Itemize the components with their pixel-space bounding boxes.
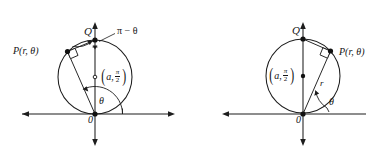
left-point-p [65,49,70,54]
figure-root: P(r, θ) Q 0 θ π − θ ( a , π 2 ) P(r, θ) … [0,0,366,157]
right-label-point-q: Q [292,25,300,36]
right-diagram-group [222,22,366,146]
right-center-fraction-numerator: π [283,68,289,75]
right-center-fraction-denominator: 2 [283,75,289,83]
left-supplement-leader [99,34,115,42]
left-center-paren-open: ( [101,69,105,84]
left-origin-point [92,111,97,116]
right-center-paren-open: ( [269,68,273,83]
right-circle-center-point [301,74,305,78]
left-center-fraction: π 2 [115,69,121,84]
right-x-axis-arrow-left [222,111,229,117]
left-label-center-coordinates: ( a , π 2 ) [100,69,127,84]
left-q-tick-arrow [93,46,98,50]
left-circle-center-point [93,75,97,79]
right-label-segment-r: r [320,79,324,88]
right-center-fraction: π 2 [283,68,289,83]
left-point-q [92,37,97,42]
right-center-paren-close: ) [290,68,294,83]
left-x-axis-arrow-left [22,111,29,117]
left-center-fraction-numerator: π [115,69,121,76]
right-polar-axis-tick [327,108,329,112]
left-label-point-p: P(r, θ) [13,46,38,56]
left-label-origin: 0 [88,115,93,125]
right-point-p [328,48,333,53]
left-x-axis-arrow-right [168,111,175,117]
right-origin-point [300,111,305,116]
left-y-axis-arrow-up [92,22,98,29]
right-label-point-p: P(r, θ) [339,47,364,57]
left-segment-op [68,52,96,115]
right-label-theta: θ [329,97,334,107]
left-center-paren-close: ) [122,69,126,84]
left-label-point-q: Q [84,26,92,37]
right-label-origin: 0 [296,115,301,125]
right-point-q [300,36,305,41]
left-label-theta: θ [99,96,104,106]
left-diagram-group [22,22,175,146]
left-label-pi-minus-theta: π − θ [117,26,137,36]
diagram-canvas [0,0,366,157]
right-y-axis-arrow-down [300,139,306,146]
left-y-axis-arrow-down [92,139,98,146]
left-center-fraction-denominator: 2 [115,76,121,84]
right-y-axis-arrow-up [300,22,306,29]
right-label-center-coordinates: ( a , π 2 ) [268,68,295,83]
